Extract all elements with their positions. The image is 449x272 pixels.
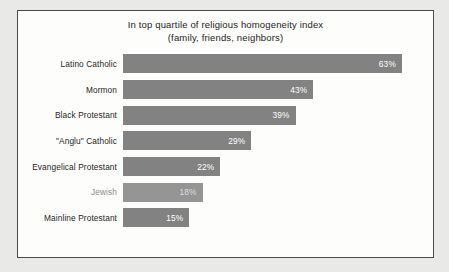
bar: 29% <box>123 131 251 150</box>
bar-row: "Anglu" Catholic29% <box>18 128 433 154</box>
bar-value-label: 18% <box>179 187 202 197</box>
bar: 22% <box>123 157 220 176</box>
category-label: Mainline Protestant <box>18 213 123 223</box>
bar: 18% <box>123 183 203 202</box>
bar: 63% <box>123 54 402 73</box>
chart-title-line-2: (family, friends, neighbors) <box>18 32 433 45</box>
bar-track: 18% <box>123 179 433 205</box>
bar-track: 29% <box>123 128 433 154</box>
bar-track: 15% <box>123 205 433 231</box>
bar-row: Mainline Protestant15% <box>18 205 433 231</box>
bar-value-label: 39% <box>272 110 295 120</box>
category-label: Black Protestant <box>18 110 123 120</box>
bar-track: 39% <box>123 102 433 128</box>
bar-value-label: 22% <box>197 162 220 172</box>
category-label: "Anglu" Catholic <box>18 136 123 146</box>
bar-row: Black Protestant39% <box>18 102 433 128</box>
bar: 15% <box>123 208 189 227</box>
bar-value-label: 63% <box>379 59 402 69</box>
plot-area: Latino Catholic63%Mormon43%Black Protest… <box>18 51 433 247</box>
bar-row: Evangelical Protestant22% <box>18 154 433 180</box>
bar-track: 63% <box>123 51 433 77</box>
category-label: Jewish <box>18 187 123 197</box>
bar-row: Mormon43% <box>18 77 433 103</box>
category-label: Mormon <box>18 85 123 95</box>
category-label: Evangelical Protestant <box>18 162 123 172</box>
chart-title: In top quartile of religious homogeneity… <box>18 11 433 44</box>
bar-row: Latino Catholic63% <box>18 51 433 77</box>
bar-value-label: 15% <box>166 213 189 223</box>
bar-value-label: 43% <box>290 85 313 95</box>
bar-track: 22% <box>123 154 433 180</box>
bar-row: Jewish18% <box>18 179 433 205</box>
bar: 43% <box>123 80 313 99</box>
chart-figure: In top quartile of religious homogeneity… <box>17 10 434 258</box>
bar-value-label: 29% <box>228 136 251 146</box>
chart-title-line-1: In top quartile of religious homogeneity… <box>18 19 433 32</box>
bar-track: 43% <box>123 77 433 103</box>
category-label: Latino Catholic <box>18 59 123 69</box>
bar: 39% <box>123 106 296 125</box>
